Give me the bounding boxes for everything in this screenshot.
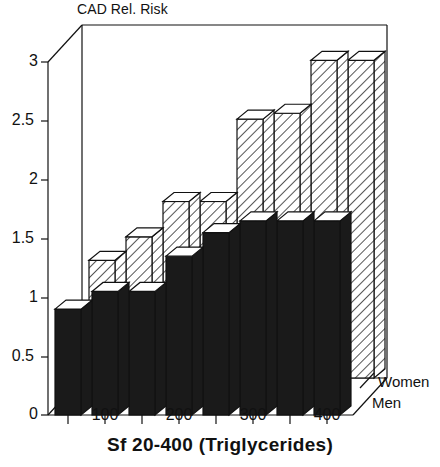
- y-axis-ticks: [41, 62, 48, 415]
- chart-title: CAD Rel. Risk: [77, 1, 168, 17]
- bar-front-face: [240, 221, 266, 415]
- x-tick-label-400: 400: [304, 406, 350, 424]
- bar-men-5: [240, 212, 277, 415]
- bar-men-1: [92, 282, 129, 415]
- bar-side-face: [118, 282, 129, 415]
- x-tick-label-100: 100: [82, 406, 128, 424]
- bar-front-face: [129, 291, 155, 415]
- bar-series-group: [55, 51, 385, 415]
- x-tick-label-200: 200: [156, 406, 202, 424]
- y-tick-label-0: 0: [4, 405, 38, 423]
- bar-side-face: [303, 212, 314, 415]
- bar-men-2: [129, 282, 166, 415]
- y-tick-label-1: 1: [4, 288, 38, 306]
- bar-side-face: [266, 212, 277, 415]
- bar-front-face: [277, 221, 303, 415]
- bar-men-6: [277, 212, 314, 415]
- bar-front-face: [92, 291, 118, 415]
- bar-men-4: [203, 224, 240, 415]
- bar-men-3: [166, 247, 203, 415]
- y-tick-label-3: 3: [4, 52, 38, 70]
- y-tick-label-2: 2: [4, 170, 38, 188]
- bar-men-0: [55, 300, 92, 415]
- bar-front-face: [203, 233, 229, 415]
- y-tick-label-0-5: 0.5: [0, 347, 34, 365]
- bar-side-face: [229, 224, 240, 415]
- x-axis-title: Sf 20-400 (Triglycerides): [0, 434, 440, 456]
- x-tick-label-300: 300: [230, 406, 276, 424]
- y-tick-label-2-5: 2.5: [0, 111, 34, 129]
- bar-front-face: [314, 221, 340, 415]
- bar-side-face: [374, 51, 385, 378]
- bar-front-face: [166, 256, 192, 415]
- chart-container: CAD Rel. Risk 3 2.5 2 1.5 1 0.5 0 100 20…: [0, 0, 440, 467]
- bar-women-7: [348, 51, 385, 378]
- bar-side-face: [340, 212, 351, 415]
- y-tick-label-1-5: 1.5: [0, 229, 34, 247]
- bar-side-face: [155, 282, 166, 415]
- bar-side-face: [81, 300, 92, 415]
- bar-men-7: [314, 212, 351, 415]
- legend-label-men: Men: [372, 394, 401, 411]
- bar-front-face: [55, 309, 81, 415]
- bar-front-face: [348, 60, 374, 378]
- bar-side-face: [192, 247, 203, 415]
- depth-edge-top: [48, 25, 82, 62]
- legend-label-women: Women: [378, 373, 429, 390]
